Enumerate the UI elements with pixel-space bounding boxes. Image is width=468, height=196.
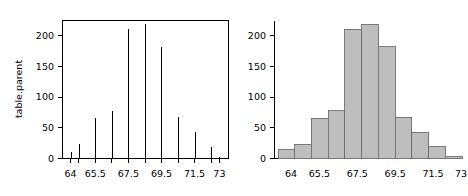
right-y-axis: 0 50 100 150 200	[248, 30, 275, 164]
y-tick-label-200: 200	[248, 30, 266, 41]
histogram-bar-66-5	[328, 111, 345, 159]
x-tick-label-67-5: 67.5	[118, 168, 139, 179]
x-tick-label-67-5: 67.5	[347, 168, 368, 179]
x-tick-label-69-5: 69.5	[151, 168, 172, 179]
left-x-axis: 64 65.5 67.5 69.5 71.5 73	[64, 159, 225, 180]
right-panel-histogram: 0 50 100 150 200 64 65.5 67.5 69.5 71.5 …	[234, 0, 468, 196]
histogram-bar-64	[278, 150, 295, 159]
histogram-bar-70-5	[395, 117, 412, 158]
histogram-bar-67-5	[345, 29, 362, 158]
x-tick-label-73: 73	[213, 168, 225, 179]
right-panel-svg: 0 50 100 150 200 64 65.5 67.5 69.5 71.5 …	[234, 0, 468, 196]
histogram-bar-68-5	[362, 24, 379, 158]
y-tick-label-150: 150	[248, 61, 266, 72]
y-tick-label-150: 150	[36, 61, 54, 72]
y-tick-label-200: 200	[36, 30, 54, 41]
x-tick-label-73: 73	[455, 168, 467, 179]
histogram-bars	[278, 24, 462, 158]
y-tick-label-0: 0	[260, 153, 266, 164]
y-tick-label-100: 100	[36, 91, 54, 102]
x-tick-label-69-5: 69.5	[385, 168, 406, 179]
right-x-axis: 64 65.5 67.5 69.5 71.5 73	[285, 168, 467, 179]
histogram-bar-65-5	[311, 118, 328, 158]
y-axis-title: table.parent	[13, 60, 24, 118]
histogram-bar-69-5	[378, 47, 395, 159]
y-tick-label-100: 100	[248, 91, 266, 102]
y-tick-label-0: 0	[48, 153, 54, 164]
x-tick-label-71-5: 71.5	[423, 168, 444, 179]
histogram-bar-71-5	[412, 132, 429, 158]
x-tick-label-64: 64	[64, 168, 76, 179]
spike-series	[72, 24, 220, 158]
left-panel-svg: 0 50 100 150 200 table.parent	[0, 0, 234, 196]
y-tick-label-50: 50	[42, 122, 54, 133]
histogram-bar-72-5	[429, 147, 446, 159]
left-y-axis: 0 50 100 150 200	[36, 30, 63, 164]
x-tick-label-65-5: 65.5	[309, 168, 330, 179]
x-tick-label-64: 64	[285, 168, 297, 179]
left-panel-spike-plot: 0 50 100 150 200 table.parent	[0, 0, 234, 196]
histogram-bar-64-5	[295, 144, 312, 158]
x-tick-label-71-5: 71.5	[184, 168, 205, 179]
y-tick-label-50: 50	[254, 122, 266, 133]
two-panel-figure: 0 50 100 150 200 table.parent	[0, 0, 468, 196]
x-tick-label-65-5: 65.5	[85, 168, 106, 179]
histogram-bar-73	[445, 157, 462, 159]
